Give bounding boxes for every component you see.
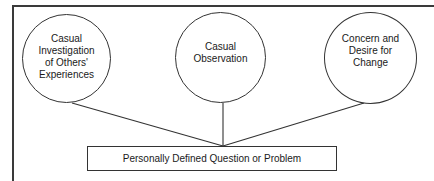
source-node-casual-observation: Casual Observation bbox=[175, 12, 266, 103]
source-node-label: Concern and Desire for Change bbox=[342, 33, 399, 69]
target-node-label: Personally Defined Question or Problem bbox=[123, 153, 301, 164]
source-node-label: Casual Investigation of Others' Experien… bbox=[38, 33, 94, 81]
connector-c1 bbox=[72, 103, 223, 146]
source-node-label: Casual Observation bbox=[194, 41, 248, 65]
source-node-concern-desire: Concern and Desire for Change bbox=[324, 12, 417, 104]
target-node-question-problem: Personally Defined Question or Problem bbox=[87, 146, 337, 171]
connector-c3 bbox=[223, 103, 364, 146]
source-node-casual-investigation: Casual Investigation of Others' Experien… bbox=[22, 14, 111, 103]
